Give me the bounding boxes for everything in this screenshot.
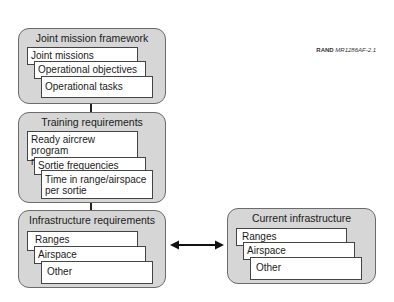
group-joint-mission-framework: Joint mission framework Joint missions O… bbox=[18, 28, 166, 104]
group-title: Infrastructure requirements bbox=[19, 214, 165, 226]
group-title: Current infrastructure bbox=[228, 212, 375, 224]
bidirectional-arrow-icon bbox=[170, 239, 224, 251]
group-current-infrastructure: Current infrastructure Ranges Airspace O… bbox=[227, 208, 376, 284]
credit-id: MR1286AF-2.1 bbox=[335, 47, 376, 53]
figure-credit: RAND MR1286AF-2.1 bbox=[316, 47, 376, 53]
card-time-in-range: Time in range/airspace per sortie bbox=[41, 170, 153, 199]
group-infrastructure-requirements: Infrastructure requirements Ranges Airsp… bbox=[18, 210, 166, 288]
card-other: Other bbox=[250, 257, 362, 280]
card-operational-tasks: Operational tasks bbox=[41, 76, 153, 98]
credit-org: RAND bbox=[316, 47, 333, 53]
card-other: Other bbox=[41, 261, 153, 284]
group-title: Training requirements bbox=[19, 116, 165, 128]
group-training-requirements: Training requirements Ready aircrew prog… bbox=[18, 112, 166, 203]
group-title: Joint mission framework bbox=[19, 32, 165, 44]
